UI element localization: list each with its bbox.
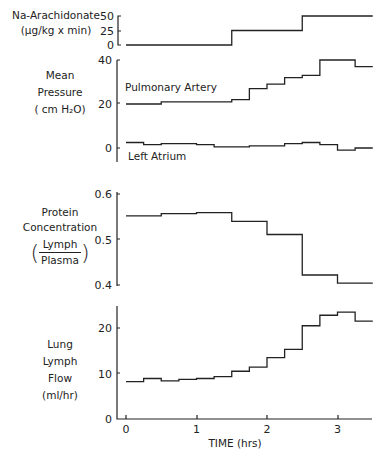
x-tick-label: 2 xyxy=(264,423,271,436)
flow-unit: (ml/hr) xyxy=(20,387,100,404)
na-title: Na-Arachidonate (µg/kg x min) xyxy=(8,8,104,38)
protein-fraction: (LymphPlasma) xyxy=(14,237,106,268)
y-tick-label: 20 xyxy=(98,98,112,111)
flow-title-2: Lymph xyxy=(20,353,100,370)
x-tick-label: 3 xyxy=(334,423,341,436)
x-tick-label: 0 xyxy=(123,423,130,436)
na-title-text: Na-Arachidonate xyxy=(8,8,104,23)
flow-title-1: Lung xyxy=(20,336,100,353)
y-tick-label: 0 xyxy=(105,142,112,155)
y-tick-label: 20 xyxy=(98,322,112,335)
pa-series-label: Pulmonary Artery xyxy=(125,80,217,95)
na-unit-text: (µg/kg x min) xyxy=(8,23,104,38)
series-line-na-arachidonate-g-kg-x-min- xyxy=(126,16,373,45)
flow-y-axis xyxy=(117,306,372,419)
pressure-title-1: Mean xyxy=(20,67,100,84)
protein-denominator: Plasma xyxy=(39,253,81,268)
protein-numerator: Lymph xyxy=(39,237,81,253)
pressure-title: Mean Pressure ( cm H₂O) xyxy=(20,67,100,118)
protein-title-1: Protein xyxy=(14,205,106,220)
flow-title-3: Flow xyxy=(20,370,100,387)
pressure-unit: ( cm H₂O) xyxy=(20,101,100,118)
pressure-title-2: Pressure xyxy=(20,84,100,101)
flow-title: Lung Lymph Flow (ml/hr) xyxy=(20,336,100,404)
y-tick-label: 0.6 xyxy=(95,188,113,201)
la-series-label: Left Atrium xyxy=(128,149,186,164)
protein-y-axis xyxy=(117,192,120,286)
y-tick-label: 0 xyxy=(105,413,112,426)
y-tick-label: 0 xyxy=(107,39,114,52)
y-tick-label: 0.4 xyxy=(95,279,113,292)
y-tick-label: 40 xyxy=(98,54,112,67)
x-axis-label: TIME (hrs) xyxy=(190,436,280,451)
pressure-y-axis xyxy=(117,60,120,162)
x-tick-label: 1 xyxy=(193,423,200,436)
protein-title-2: Concentration xyxy=(14,220,106,235)
protein-title: Protein Concentration (LymphPlasma) xyxy=(14,205,106,268)
na-y-axis xyxy=(118,16,121,45)
series-line-lung-lymph-flow-ml-hr- xyxy=(126,312,373,382)
series-line-protein-concentration-lymph-plasma- xyxy=(126,213,373,284)
y-tick-label: 10 xyxy=(98,368,112,381)
